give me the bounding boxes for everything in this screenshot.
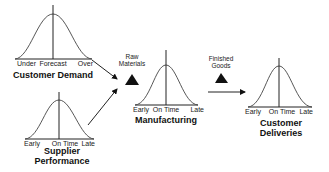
axis-label-early: Early: [133, 106, 149, 114]
axis-label-early: Early: [245, 108, 261, 116]
customer-deliveries-title-line2: Deliveries: [260, 128, 303, 138]
supplier-performance-title-line2: Performance: [34, 156, 89, 166]
arrow-supplier-to-manufacturing: [88, 89, 117, 125]
axis-label-over: Over: [78, 60, 94, 67]
finished-goods-inventory: Finished Goods: [209, 55, 234, 83]
customer-deliveries-bell-curve: [248, 66, 312, 107]
finished-goods-label-line1: Finished: [209, 55, 234, 62]
raw-materials-label-line1: Raw: [125, 53, 138, 60]
raw-materials-inventory: Raw Materials: [119, 53, 146, 85]
finished-goods-label-line2: Goods: [211, 62, 231, 69]
customer-deliveries-title-line1: Customer: [260, 118, 303, 128]
supplier-performance-title-line1: Supplier: [44, 146, 81, 156]
customer-demand-node: Under Forecast Over Customer Demand: [13, 5, 94, 80]
axis-label-late: Late: [190, 106, 204, 113]
axis-label-early: Early: [24, 140, 40, 148]
raw-materials-label-line2: Materials: [119, 60, 146, 67]
supplier-performance-node: Early On Time Late Supplier Performance: [24, 92, 95, 166]
axis-label-on-time: On Time: [269, 108, 296, 115]
axis-label-late: Late: [299, 108, 313, 115]
arrow-demand-to-manufacturing: [92, 60, 117, 79]
inventory-triangle-icon: [125, 74, 139, 85]
axis-label-forecast: Forecast: [39, 60, 66, 67]
manufacturing-title: Manufacturing: [135, 115, 197, 125]
axis-label-late: Late: [81, 140, 95, 147]
customer-deliveries-node: Early On Time Late Customer Deliveries: [245, 58, 313, 138]
axis-label-on-time: On Time: [153, 106, 180, 113]
supply-chain-diagram: Under Forecast Over Customer Demand Earl…: [0, 0, 329, 172]
inventory-triangle-icon: [215, 73, 228, 83]
axis-label-under: Under: [17, 60, 37, 67]
customer-demand-title: Customer Demand: [13, 70, 93, 80]
